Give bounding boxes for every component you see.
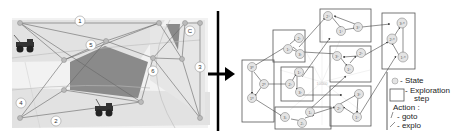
region-label: C — [188, 28, 193, 34]
state-node: 2⁶ — [337, 107, 341, 111]
center-label: 10000 — [316, 81, 328, 86]
state-node: 3¹⁰ — [399, 22, 404, 26]
exploration-graph: 10000 — [242, 9, 415, 129]
state-node: 1¹⁰ — [400, 56, 405, 60]
legend-explo-label: - explo — [397, 121, 421, 130]
state-node: 1⁰ — [250, 97, 254, 101]
state-node: 3⁰ — [250, 66, 254, 70]
state-node: 2⁵ — [359, 52, 363, 56]
legend-action-title: Action : — [393, 103, 420, 112]
state-node: 2⁴ — [326, 15, 330, 19]
state-node: 3⁶ — [357, 93, 361, 97]
state-node: 3⁴ — [356, 26, 360, 30]
transform-arrow — [208, 11, 235, 131]
explo-arrow-icon — [390, 122, 395, 127]
state-node: 3⁵ — [335, 55, 339, 59]
legend-exploration-label-step: step — [414, 94, 429, 103]
exploration-step-legend-icon — [390, 89, 404, 101]
state-node: 2¹⁰ — [389, 38, 394, 42]
exploration-step-box — [242, 60, 274, 122]
environment-map: 1 2 3 4 5 6 C — [12, 16, 210, 128]
exploration-step-boxes — [242, 9, 415, 129]
legend-goto-label: - goto — [397, 112, 417, 121]
state-node: 1⁶ — [355, 116, 359, 120]
goto-arrow-icon — [391, 112, 393, 118]
state-node: 1⁵ — [347, 68, 351, 72]
state-node: 1⁴ — [339, 30, 343, 34]
figure: 1 2 3 4 5 6 C 10000 — [0, 0, 456, 139]
diagram-canvas: 1 2 3 4 5 6 C 10000 — [0, 0, 456, 139]
state-node: 2⁰ — [262, 83, 266, 87]
legend-state-label: - State — [400, 76, 424, 85]
state-legend-icon — [392, 78, 398, 84]
